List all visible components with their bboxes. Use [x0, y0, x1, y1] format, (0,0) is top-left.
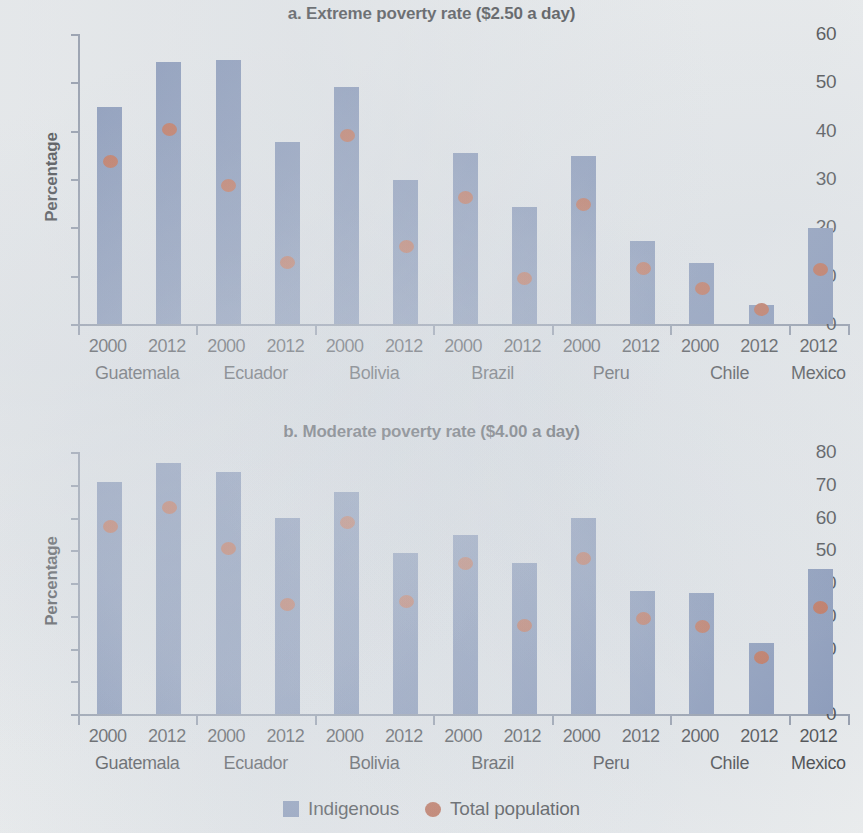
dot-total-population — [399, 595, 414, 608]
chart-legend: Indigenous Total population — [0, 798, 863, 820]
legend-item-total-population: Total population — [425, 798, 580, 820]
bar-indigenous — [393, 553, 418, 714]
x-axis-group-separator — [433, 714, 435, 725]
panel-b-title: b. Moderate poverty rate ($4.00 a day) — [0, 418, 863, 442]
chart-panel-extreme-poverty: a. Extreme poverty rate ($2.50 a day) Pe… — [0, 0, 863, 415]
dot-total-population — [636, 612, 651, 625]
y-axis-tick — [71, 550, 80, 552]
y-axis-tick — [71, 131, 80, 133]
bar-indigenous — [808, 569, 833, 714]
x-axis-year-label: 2000 — [563, 726, 601, 747]
x-axis-country-label: Peru — [593, 363, 629, 384]
x-axis-year-label: 2000 — [444, 726, 482, 747]
x-axis-country-label: Bolivia — [349, 363, 399, 384]
x-axis-year-label: 2000 — [207, 726, 245, 747]
bar-indigenous — [216, 472, 241, 714]
x-axis-year-label: 2012 — [503, 336, 541, 357]
dot-total-population — [221, 542, 236, 555]
bar-indigenous — [630, 241, 655, 324]
y-axis-tick — [71, 518, 80, 520]
x-axis-country-label: Ecuador — [224, 753, 288, 774]
dot-total-population — [162, 123, 177, 136]
bar-indigenous — [97, 107, 122, 325]
x-axis-year-label: 2012 — [503, 726, 541, 747]
x-axis-year-label: 2012 — [266, 336, 304, 357]
x-axis-year-label: 2012 — [800, 726, 838, 747]
bar-indigenous — [512, 207, 537, 324]
square-swatch-icon — [283, 801, 299, 817]
chart-panel-moderate-poverty: b. Moderate poverty rate ($4.00 a day) P… — [0, 418, 863, 793]
bar-indigenous — [275, 518, 300, 714]
x-axis-group-separator — [789, 324, 791, 335]
x-axis-year-label: 2012 — [740, 726, 778, 747]
panel-a-title: a. Extreme poverty rate ($2.50 a day) — [0, 0, 863, 24]
y-axis-tick-label: 30 — [816, 168, 836, 190]
dot-total-population — [280, 256, 295, 269]
x-axis-year-label: 2000 — [444, 336, 482, 357]
legend-item-indigenous: Indigenous — [283, 798, 399, 820]
x-axis-group-separator — [670, 714, 672, 725]
y-axis-tick-label: 60 — [816, 23, 836, 45]
bar-indigenous — [689, 593, 714, 714]
dot-total-population — [517, 619, 532, 632]
bar-indigenous — [216, 60, 241, 324]
legend-label-total-population: Total population — [450, 798, 580, 820]
y-axis-tick — [71, 583, 80, 585]
circle-swatch-icon — [425, 802, 441, 817]
x-axis-year-label: 2000 — [89, 726, 127, 747]
bar-indigenous — [275, 142, 300, 324]
x-axis-year-label: 2000 — [326, 726, 364, 747]
y-axis-tick — [71, 681, 80, 683]
bar-indigenous — [512, 563, 537, 714]
dot-total-population — [221, 179, 236, 192]
x-axis-country-label: Peru — [593, 753, 629, 774]
panel-b-y-axis-title: Percentage — [42, 521, 62, 641]
dot-total-population — [754, 651, 769, 664]
y-axis-tick-label: 40 — [816, 120, 836, 142]
y-axis-tick-label: 60 — [816, 507, 836, 529]
dot-total-population — [340, 129, 355, 142]
legend-label-indigenous: Indigenous — [308, 798, 399, 820]
x-axis-year-label: 2012 — [266, 726, 304, 747]
x-axis-year-label: 2012 — [622, 726, 660, 747]
y-axis-tick-label: 50 — [816, 539, 836, 561]
x-axis-country-label: Chile — [710, 363, 749, 384]
dot-total-population — [399, 240, 414, 253]
y-axis-tick — [71, 227, 80, 229]
y-axis-tick — [71, 485, 80, 487]
x-axis-year-label: 2000 — [563, 336, 601, 357]
x-axis-group-separator — [670, 324, 672, 335]
x-axis-country-label: Bolivia — [349, 753, 399, 774]
x-axis-group-separator — [433, 324, 435, 335]
x-axis-year-label: 2000 — [207, 336, 245, 357]
x-axis-country-label: Chile — [710, 753, 749, 774]
panel-a-y-axis-title: Percentage — [42, 117, 62, 237]
y-axis-tick — [71, 82, 80, 84]
x-axis-year-label: 2012 — [385, 726, 423, 747]
bar-indigenous — [453, 153, 478, 324]
x-axis-year-label: 2012 — [148, 336, 186, 357]
x-axis-country-label: Mexico — [791, 753, 846, 774]
bar-indigenous — [571, 156, 596, 324]
bar-indigenous — [334, 87, 359, 324]
x-axis-year-label: 2000 — [89, 336, 127, 357]
y-axis-tick — [71, 649, 80, 651]
x-axis-year-label: 2000 — [326, 336, 364, 357]
x-axis-country-label: Mexico — [791, 363, 846, 384]
x-axis-country-label: Brazil — [471, 753, 514, 774]
x-axis-end-tick — [78, 324, 80, 335]
bar-indigenous — [156, 62, 181, 324]
x-axis-group-separator — [196, 714, 198, 725]
plot-frame: 020304050607080 — [78, 452, 850, 716]
x-axis-year-label: 2000 — [681, 726, 719, 747]
bar-indigenous — [571, 518, 596, 714]
y-axis-tick — [71, 616, 80, 618]
y-axis-tick-label: 50 — [816, 71, 836, 93]
dot-total-population — [103, 520, 118, 533]
x-axis-country-label: Brazil — [471, 363, 514, 384]
y-axis-tick — [71, 179, 80, 181]
y-axis-tick — [71, 34, 80, 36]
x-axis-country-label: Guatemala — [95, 363, 179, 384]
x-axis-year-label: 2012 — [148, 726, 186, 747]
x-axis-year-label: 2012 — [385, 336, 423, 357]
